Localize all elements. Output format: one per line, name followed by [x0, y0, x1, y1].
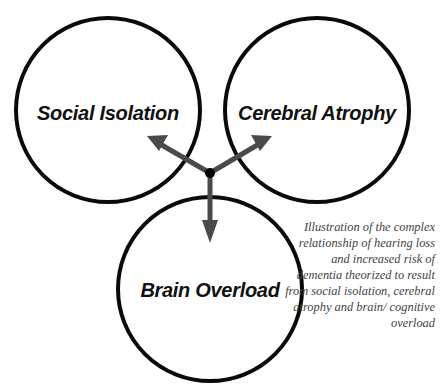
social-isolation-label: Social Isolation: [37, 102, 179, 125]
cerebral-atrophy-label: Cerebral Atrophy: [238, 102, 396, 125]
brain-overload-label: Brain Overload: [140, 279, 279, 302]
arrow-to-cerebral-atrophy: [210, 135, 272, 173]
figure-caption: Illustration of the complex relationship…: [285, 219, 435, 331]
arrow-to-brain-overload: [202, 173, 218, 243]
hub-dot: [205, 168, 215, 178]
